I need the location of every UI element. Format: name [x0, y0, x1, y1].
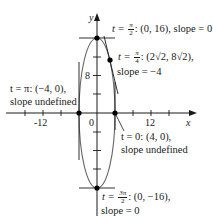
x-tick-label-neg12: -12 [34, 117, 47, 128]
t-prefix: t = [112, 23, 127, 34]
fraction: 3π2 [118, 190, 127, 205]
x-axis-arrow-icon [189, 110, 197, 116]
annotation-quarter-slope: slope = −4 [117, 66, 162, 77]
point-quarter [107, 57, 112, 62]
annotation-bottom-text: : (0, −16), [128, 191, 170, 202]
annotation-bottom-slope: slope = 0 [101, 205, 140, 216]
tangent-quarter [104, 36, 118, 94]
annotation-quarter-text: : (2√2, 8√2), [141, 51, 194, 62]
fraction: π2 [128, 22, 134, 37]
annotation-top: t = π2: (0, 16), slope = 0 [112, 22, 212, 37]
annotation-bottom: t = 3π2: (0, −16), [102, 190, 170, 205]
y-tick-label-8: 8 [85, 70, 90, 81]
t-prefix: t = [102, 191, 117, 202]
annotation-top-text: : (0, 16), slope = 0 [135, 23, 212, 34]
annotation-left-line2: slope undefined [10, 96, 77, 107]
annotation-right-line1: t = 0: (4, 0), [121, 131, 171, 142]
x-tick-label-12: 12 [145, 117, 155, 128]
annotation-quarter: t = π4: (2√2, 8√2), [118, 50, 194, 65]
x-axis-label: x [186, 117, 190, 128]
t-prefix: t = [118, 51, 133, 62]
point-right [112, 110, 117, 115]
leader-right [116, 115, 124, 131]
fraction: π4 [134, 50, 140, 65]
annotation-right-line2: slope undefined [121, 144, 188, 155]
y-axis-arrow-icon [94, 13, 100, 21]
annotation-left-line1: t = π: (−4, 0), [10, 83, 66, 94]
point-top [94, 35, 99, 40]
y-axis-label: y [89, 12, 93, 23]
point-bottom [94, 185, 99, 190]
x-tick-label-0: 0 [89, 117, 94, 128]
point-left [76, 110, 81, 115]
